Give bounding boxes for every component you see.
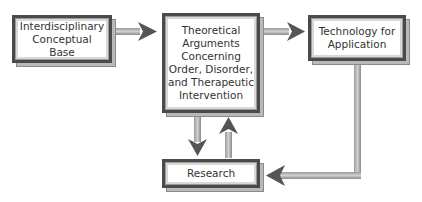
arrow-research-to-theory	[219, 117, 238, 158]
arrow-tech-to-research	[266, 62, 361, 186]
node-box: Interdisciplinary Conceptual Base	[12, 15, 112, 63]
node-label: Research	[184, 167, 238, 180]
node-box: Research	[162, 159, 260, 188]
node-box: Technology for Application	[308, 15, 406, 61]
node-label: Technology for Application	[311, 25, 403, 51]
arrow-base-to-theory	[114, 22, 157, 41]
node-label: Interdisciplinary Conceptual Base	[15, 20, 109, 59]
node-box: Theoretical Arguments Concerning Order, …	[162, 13, 260, 113]
arrow-theory-to-tech	[263, 22, 305, 41]
arrow-theory-to-research	[188, 114, 207, 156]
node-label: Theoretical Arguments Concerning Order, …	[165, 24, 257, 102]
